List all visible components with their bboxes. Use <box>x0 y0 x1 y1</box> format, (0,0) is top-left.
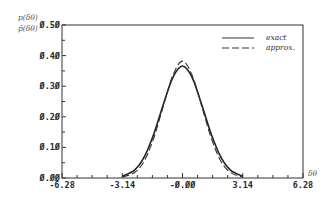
y-axis-label-exact: p(δθ) <box>18 13 38 22</box>
x-axis-label: δθ <box>308 169 318 178</box>
y-tick-label: Ø.2Ø <box>39 112 61 122</box>
x-tick-label: -3.14 <box>109 180 135 190</box>
y-tick-label: Ø.3Ø <box>39 81 61 91</box>
x-axis-ticks: -6.28-3.14-Ø.ØØ3.146.28 <box>49 173 313 190</box>
y-tick-label: Ø.4Ø <box>39 51 61 61</box>
legend: exact approx. <box>222 33 295 52</box>
legend-approx-label: approx. <box>266 43 295 52</box>
chart-canvas: p(δθ) p̂(δθ) δθ Ø.ØØØ.1ØØ.2ØØ.3ØØ.4ØØ.5Ø… <box>0 0 330 201</box>
series-approx-curve <box>122 61 243 177</box>
legend-exact-label: exact <box>266 33 287 42</box>
series-exact-curve <box>122 66 243 176</box>
x-tick-label: -Ø.ØØ <box>170 180 196 190</box>
x-tick-label: 6.28 <box>293 180 313 190</box>
y-tick-label: Ø.1Ø <box>39 142 61 152</box>
y-tick-label: Ø.5Ø <box>39 20 61 30</box>
x-tick-label: 3.14 <box>233 180 253 190</box>
y-axis-label-approx: p̂(δθ) <box>18 24 38 33</box>
x-tick-label: -6.28 <box>49 180 75 190</box>
